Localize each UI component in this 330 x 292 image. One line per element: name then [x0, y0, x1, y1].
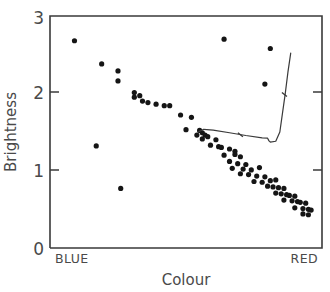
y-tick-label-0: 0 [33, 239, 44, 259]
y-tick-label-2: 2 [33, 83, 44, 103]
data-point [268, 178, 273, 183]
y-tick-label-3: 3 [33, 8, 44, 28]
data-point [213, 137, 218, 142]
data-point [200, 136, 205, 141]
y-axis-title: Brightness [2, 92, 20, 172]
data-point [162, 103, 167, 108]
data-point [262, 81, 267, 86]
data-point [238, 171, 243, 176]
data-point [132, 95, 137, 100]
data-point [300, 211, 305, 216]
y-axis-ticks [50, 92, 59, 170]
data-point [227, 146, 232, 151]
theoretical-curve-group [198, 53, 290, 142]
data-point [189, 115, 194, 120]
data-point [183, 127, 188, 132]
data-point [132, 90, 137, 95]
data-points-group [72, 37, 314, 218]
data-point [276, 185, 281, 190]
data-point [309, 208, 314, 213]
data-point [115, 68, 120, 73]
data-point [221, 37, 226, 42]
data-point [289, 198, 294, 203]
data-point [281, 197, 286, 202]
data-point [140, 98, 145, 103]
data-point [251, 179, 256, 184]
data-point [99, 61, 104, 66]
y-axis-ticks-right [313, 92, 322, 170]
data-point [254, 173, 259, 178]
data-point [115, 78, 120, 83]
data-point [72, 38, 77, 43]
data-point [279, 191, 284, 196]
data-point [238, 154, 243, 159]
data-point [235, 161, 240, 166]
data-point [281, 186, 286, 191]
data-point [273, 190, 278, 195]
data-point [167, 103, 172, 108]
data-point [300, 206, 305, 211]
x-label-blue: BLUE [55, 251, 89, 266]
data-point [208, 143, 213, 148]
data-point [257, 165, 262, 170]
data-point [306, 212, 311, 217]
data-point [243, 162, 248, 167]
data-point [118, 186, 123, 191]
data-point [262, 174, 267, 179]
data-point [230, 166, 235, 171]
data-point [273, 177, 278, 182]
data-point [270, 184, 275, 189]
data-point [241, 167, 246, 172]
data-point [268, 46, 273, 51]
data-point [137, 93, 142, 98]
data-point [153, 102, 158, 107]
scatter-plot-figure: 3 2 1 0 BLUE RED Colour Brightness [0, 0, 330, 292]
data-point [249, 167, 254, 172]
data-point [221, 153, 226, 158]
data-point [94, 143, 99, 148]
data-point [205, 134, 210, 139]
y-tick-label-1: 1 [33, 161, 44, 181]
data-point [145, 100, 150, 105]
data-point [303, 201, 308, 206]
data-point [260, 180, 265, 185]
plot-canvas: 3 2 1 0 BLUE RED Colour Brightness [0, 0, 330, 292]
data-point [292, 205, 297, 210]
data-point [287, 193, 292, 198]
data-point [246, 172, 251, 177]
x-label-red: RED [291, 251, 318, 266]
x-axis-title: Colour [162, 271, 212, 289]
data-point [227, 159, 232, 164]
data-point [232, 152, 237, 157]
data-point [219, 145, 224, 150]
data-point [298, 200, 303, 205]
data-point [194, 132, 199, 137]
data-point [178, 112, 183, 117]
data-point [265, 184, 270, 189]
theoretical-curve [198, 53, 290, 142]
data-point [292, 194, 297, 199]
